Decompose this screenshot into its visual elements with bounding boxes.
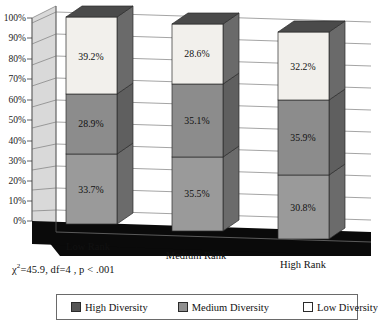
y-tick-10: 10% <box>9 196 27 206</box>
y-tick-40: 40% <box>9 136 27 146</box>
bar-group-high-rank[interactable]: 32.2% 35.9% 30.8% <box>278 21 345 239</box>
y-axis-ticks <box>27 18 32 221</box>
left-wall <box>32 6 56 232</box>
bar-medium-rank-seg-medium-side <box>223 73 239 157</box>
bar-medium-rank-label-medium: 35.1% <box>184 115 209 126</box>
bar-low-rank-seg-medium-side <box>117 83 133 154</box>
y-tick-20: 20% <box>9 176 27 186</box>
bar-high-rank-seg-high-side <box>329 164 345 239</box>
bar-group-medium-rank[interactable]: 28.6% 35.1% 35.5% <box>172 13 239 231</box>
chi-stat-text: =45.9, df=4 , p < .001 <box>20 264 114 275</box>
x-category-label-low-rank: Low Rank <box>66 241 111 252</box>
bar-high-rank-label-low: 32.2% <box>290 61 315 72</box>
legend-label-low-diversity: Low Diversity <box>317 302 378 313</box>
legend-item-low-diversity[interactable]: Low Diversity <box>303 302 378 313</box>
chi-square-annotation: χ2=45.9, df=4 , p < .001 <box>12 262 115 275</box>
x-category-label-high-rank: High Rank <box>280 259 327 270</box>
bar-medium-rank-label-low: 28.6% <box>184 48 209 59</box>
chart-legend: High Diversity Medium Diversity Low Dive… <box>56 294 358 320</box>
y-tick-50: 50% <box>9 115 27 125</box>
y-tick-30: 30% <box>9 156 27 166</box>
x-category-label-medium-rank: Medium Rank <box>166 250 227 261</box>
y-tick-0: 0% <box>13 216 26 226</box>
legend-swatch-medium-diversity <box>178 302 188 312</box>
bar-high-rank-seg-medium-side <box>329 89 345 175</box>
y-tick-90: 90% <box>9 33 27 43</box>
legend-item-high-diversity[interactable]: High Diversity <box>71 302 148 313</box>
bar-low-rank-label-high: 33.7% <box>78 184 103 195</box>
y-tick-100: 100% <box>4 13 26 23</box>
y-tick-80: 80% <box>9 54 27 64</box>
y-tick-60: 60% <box>9 95 27 105</box>
bar-medium-rank-seg-high-side <box>223 146 239 231</box>
bar-low-rank-seg-high-side <box>117 143 133 224</box>
bar-medium-rank-seg-low-side <box>223 13 239 84</box>
legend-swatch-high-diversity <box>71 302 81 312</box>
bar-low-rank-label-medium: 28.9% <box>78 118 103 129</box>
bar-high-rank-label-high: 30.8% <box>290 202 315 213</box>
legend-label-medium-diversity: Medium Diversity <box>192 302 269 313</box>
legend-swatch-low-diversity <box>303 302 313 312</box>
bar-high-rank-label-medium: 35.9% <box>290 132 315 143</box>
bar-low-rank-seg-low-side <box>117 6 133 94</box>
legend-item-medium-diversity[interactable]: Medium Diversity <box>178 302 269 313</box>
bar-medium-rank-label-high: 35.5% <box>184 188 209 199</box>
bar-group-low-rank[interactable]: 39.2% 28.9% 33.7% <box>66 6 133 224</box>
y-tick-70: 70% <box>9 74 27 84</box>
bar-high-rank-seg-low-side <box>329 21 345 100</box>
bar-low-rank-label-low: 39.2% <box>78 51 103 62</box>
legend-label-high-diversity: High Diversity <box>85 302 148 313</box>
